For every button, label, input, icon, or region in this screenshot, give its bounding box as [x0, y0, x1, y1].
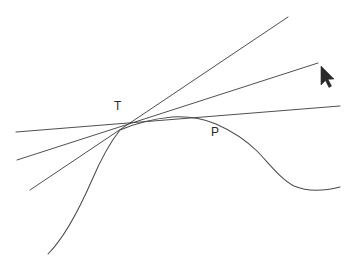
- secant-point-label: P: [211, 126, 219, 138]
- mouse-pointer-icon: [321, 66, 334, 88]
- tangent-line: [16, 106, 340, 132]
- function-curve: [48, 117, 340, 254]
- tangent-point-label: T: [114, 100, 121, 112]
- figure-canvas: T P: [0, 0, 358, 271]
- cursor-arrow-shape: [321, 66, 334, 88]
- geometry-drawing: [0, 0, 358, 271]
- steep-secant-line: [30, 17, 288, 190]
